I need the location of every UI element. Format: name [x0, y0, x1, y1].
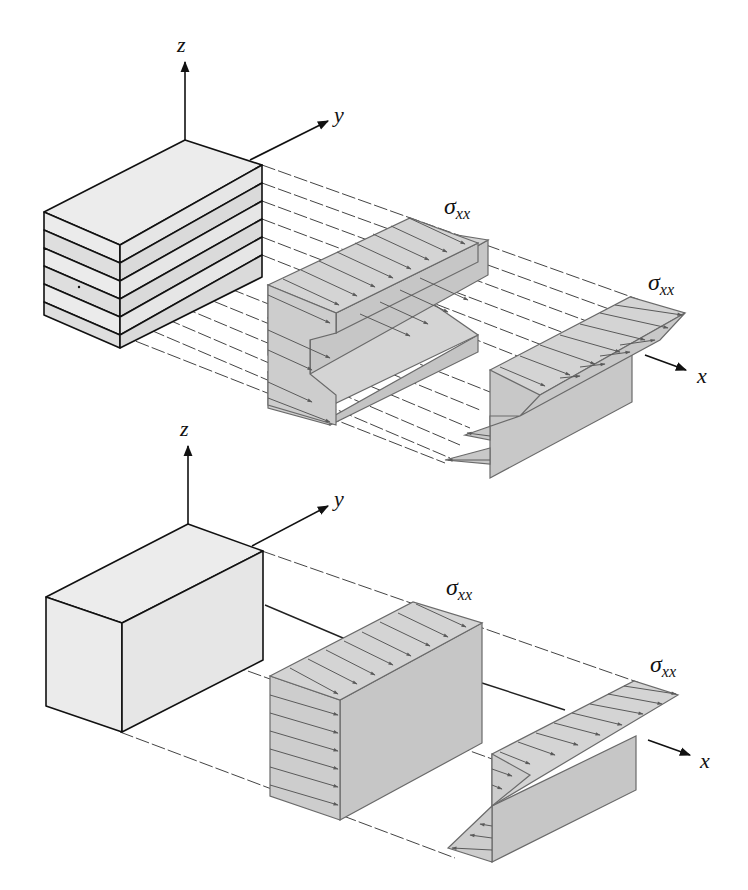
x-axis-top: [645, 355, 686, 370]
x-label-top: x: [696, 363, 707, 388]
solid-uniform-stress: [270, 602, 482, 820]
stress-diagram: z y: [0, 0, 748, 890]
x-axis-bottom: [648, 740, 690, 755]
z-label-top: z: [176, 32, 186, 57]
x-label-bottom: x: [699, 748, 710, 773]
y-axis-bottom: [252, 506, 328, 546]
bottom-panel: z y σ: [46, 416, 710, 862]
y-label-top: y: [332, 102, 344, 127]
y-axis-top: [250, 121, 328, 160]
y-label-bottom: y: [332, 486, 344, 511]
sigma-label-bottom-1: σxx: [446, 574, 472, 603]
sigma-label-top-2: σxx: [648, 269, 674, 298]
z-label-bottom: z: [179, 416, 189, 441]
projection-line-solid-2: [482, 683, 565, 710]
sigma-label-bottom-2: σxx: [650, 651, 676, 680]
laminated-block: [44, 140, 262, 348]
sigma-label-top-1: σxx: [444, 193, 470, 222]
solid-block: [46, 524, 263, 732]
top-panel: z y: [44, 32, 707, 478]
